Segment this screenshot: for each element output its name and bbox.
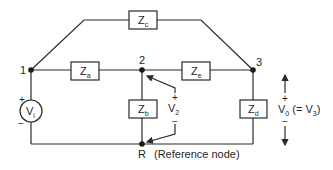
v2-arrow-top <box>147 76 175 93</box>
node-ref-dot <box>139 141 145 147</box>
circuit-diagram: Zc Za Ze Zb Zd Vi + − 1 2 3 R (Reference… <box>0 0 333 170</box>
voltage-source-vi: Vi + − <box>18 94 42 129</box>
node-2-dot <box>139 67 145 73</box>
impedance-za: Za <box>71 62 99 80</box>
source-plus: + <box>19 94 25 105</box>
node-3-dot <box>250 67 256 73</box>
node-ref-label: R <box>138 148 146 160</box>
svg-text:−: − <box>172 116 178 127</box>
node-1-dot <box>28 67 34 73</box>
node-2-label: 2 <box>139 54 145 66</box>
node-3-label: 3 <box>256 56 262 68</box>
wires <box>31 20 253 144</box>
svg-text:V2: V2 <box>168 102 179 116</box>
node-1-label: 1 <box>20 64 26 76</box>
impedance-zd: Zd <box>240 100 267 118</box>
impedance-zc: Zc <box>129 11 157 29</box>
svg-text:−: − <box>282 116 288 127</box>
svg-text:V0 (= V3): V0 (= V3) <box>278 103 320 117</box>
vo-annotation: + V0 (= V3) − <box>278 75 320 145</box>
impedance-zb: Zb <box>129 100 157 118</box>
impedance-ze: Ze <box>182 62 210 80</box>
v2-arrow-bottom <box>147 124 175 142</box>
reference-node-note: (Reference node) <box>154 148 240 160</box>
source-minus: − <box>18 118 24 129</box>
